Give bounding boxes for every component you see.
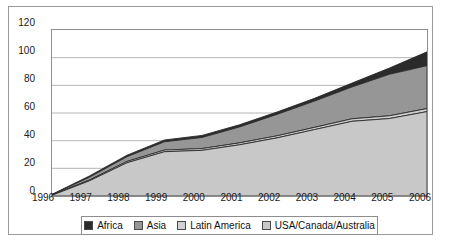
y-tick-label: 80 bbox=[5, 74, 35, 84]
plot-area bbox=[51, 29, 428, 197]
x-tick-label: 2001 bbox=[212, 192, 252, 203]
x-tick-label: 1997 bbox=[61, 192, 101, 203]
legend-swatch-icon bbox=[84, 221, 93, 230]
y-tick-label: 120 bbox=[5, 18, 35, 28]
legend-entry-latin-america[interactable]: Latin America bbox=[177, 221, 251, 231]
x-tick-label: 2006 bbox=[400, 192, 440, 203]
x-tick-label: 1999 bbox=[136, 192, 176, 203]
legend-entry-asia[interactable]: Asia bbox=[134, 221, 166, 231]
legend-swatch-icon bbox=[177, 221, 186, 230]
series-band-usa-canada-australia bbox=[52, 112, 427, 196]
legend-label: Asia bbox=[147, 221, 166, 231]
legend-label: Africa bbox=[97, 221, 123, 231]
chart-legend: Africa Asia Latin America USA/Canada/Aus… bbox=[81, 216, 378, 235]
x-tick-label: 2004 bbox=[325, 192, 365, 203]
x-tick-label: 1996 bbox=[23, 192, 63, 203]
x-tick-label: 2003 bbox=[287, 192, 327, 203]
stacked-area-series bbox=[52, 30, 427, 196]
x-tick-label: 1998 bbox=[98, 192, 138, 203]
x-tick-label: 2002 bbox=[249, 192, 289, 203]
x-tick-label: 2000 bbox=[174, 192, 214, 203]
legend-label: Latin America bbox=[190, 221, 251, 231]
legend-entry-africa[interactable]: Africa bbox=[84, 221, 123, 231]
legend-label: USA/Canada/Australia bbox=[275, 221, 375, 231]
y-tick-label: 60 bbox=[5, 102, 35, 112]
y-tick-label: 40 bbox=[5, 130, 35, 140]
x-tick-label: 2005 bbox=[362, 192, 402, 203]
legend-entry-usa-canada-australia[interactable]: USA/Canada/Australia bbox=[262, 221, 375, 231]
y-tick-label: 100 bbox=[5, 46, 35, 56]
legend-swatch-icon bbox=[262, 221, 271, 230]
chart-figure: 120 100 80 60 40 20 0 1996 1997 1998 199… bbox=[0, 0, 449, 246]
legend-swatch-icon bbox=[134, 221, 143, 230]
figure-frame: 120 100 80 60 40 20 0 1996 1997 1998 199… bbox=[8, 6, 433, 235]
y-tick-label: 20 bbox=[5, 158, 35, 168]
